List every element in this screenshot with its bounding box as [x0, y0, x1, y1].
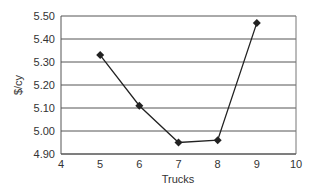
y-tick-label: 5.40 [34, 33, 55, 45]
y-axis-label: $/cy [12, 74, 24, 95]
y-tick-label: 5.50 [34, 10, 55, 22]
data-line [100, 23, 257, 143]
line-chart: 5.505.405.305.205.105.004.90 45678910 Tr… [0, 0, 316, 191]
y-axis-ticks: 5.505.405.305.205.105.004.90 [34, 10, 55, 160]
x-tick-label: 4 [58, 158, 64, 170]
y-tick-label: 5.20 [34, 79, 55, 91]
x-tick-label: 8 [215, 158, 221, 170]
y-tick-label: 4.90 [34, 148, 55, 160]
y-tick-label: 5.00 [34, 125, 55, 137]
y-tick-label: 5.30 [34, 56, 55, 68]
x-tick-label: 5 [97, 158, 103, 170]
x-tick-label: 10 [290, 158, 302, 170]
gridlines [61, 16, 296, 154]
diamond-marker-icon [253, 19, 261, 27]
x-axis-label: Trucks [162, 173, 195, 185]
x-tick-label: 9 [254, 158, 260, 170]
diamond-marker-icon [214, 136, 222, 144]
y-tick-label: 5.10 [34, 102, 55, 114]
x-tick-label: 7 [175, 158, 181, 170]
x-axis-ticks: 45678910 [58, 158, 302, 170]
x-tick-label: 6 [136, 158, 142, 170]
